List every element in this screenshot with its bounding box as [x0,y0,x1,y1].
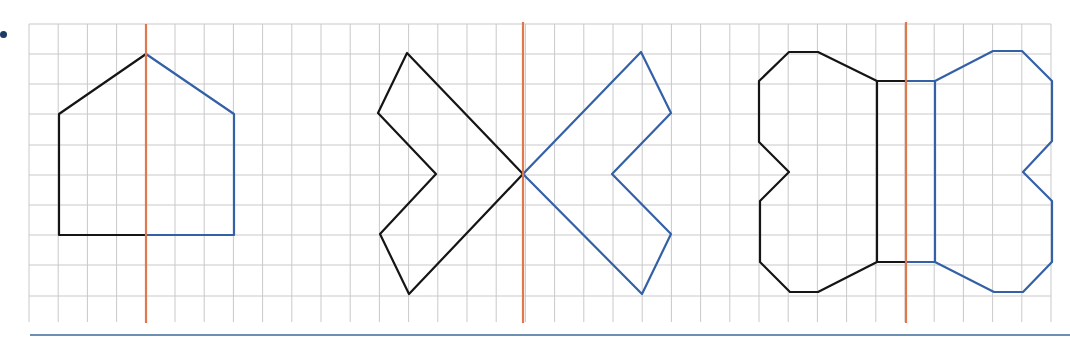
symmetry-grid-diagram [0,0,1070,337]
bottom-rule [30,334,1070,336]
figure-bone [759,22,1052,323]
original-shape [759,52,906,292]
reflected-shape [906,51,1052,292]
grid-lines [29,24,1051,322]
figure-house [59,24,234,323]
original-shape [378,53,523,294]
figures [59,22,1052,323]
figure-bow [378,22,671,323]
reflected-shape [523,52,671,294]
